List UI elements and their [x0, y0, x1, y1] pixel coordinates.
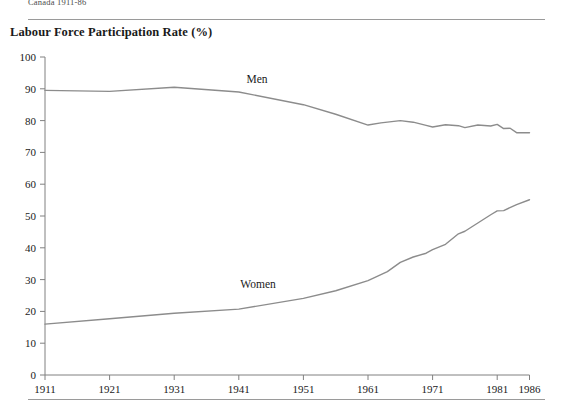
x-axis-tick-label: 1931	[163, 383, 185, 395]
series-line-men	[45, 87, 530, 132]
x-axis-tick-label: 1971	[422, 383, 444, 395]
y-axis-tick-label: 90	[25, 83, 37, 95]
y-axis-tick-label: 20	[25, 305, 37, 317]
x-axis-tick-label: 1981	[486, 383, 508, 395]
y-axis-tick-label: 60	[25, 178, 37, 190]
y-axis-tick-label: 40	[25, 242, 37, 254]
x-axis-tick-label: 1951	[292, 383, 314, 395]
series-annotation-men: Men	[246, 73, 267, 85]
series-line-women	[45, 200, 530, 324]
series-annotation-women: Women	[240, 278, 276, 290]
chart-axes	[45, 57, 530, 375]
figure-page: Canada 1911-86 Labour Force Participatio…	[0, 0, 570, 412]
x-axis-tick-label: 1921	[99, 383, 121, 395]
y-axis-tick-label: 50	[25, 210, 37, 222]
y-axis-tick-label: 100	[20, 51, 37, 63]
x-axis-tick-label: 1961	[357, 383, 379, 395]
x-axis-tick-label: 1911	[34, 383, 56, 395]
y-axis-tick-label: 10	[25, 337, 37, 349]
line-chart: 0102030405060708090100191119211931194119…	[0, 0, 570, 412]
x-axis-tick-label: 1941	[228, 383, 250, 395]
y-axis-tick-label: 0	[31, 369, 37, 381]
rule-bottom	[28, 399, 545, 400]
y-axis-tick-label: 70	[25, 146, 37, 158]
x-axis-tick-label: 1986	[519, 383, 542, 395]
y-axis-tick-label: 30	[25, 274, 37, 286]
y-axis-tick-label: 80	[25, 115, 37, 127]
chart-svg: 0102030405060708090100191119211931194119…	[0, 0, 570, 412]
